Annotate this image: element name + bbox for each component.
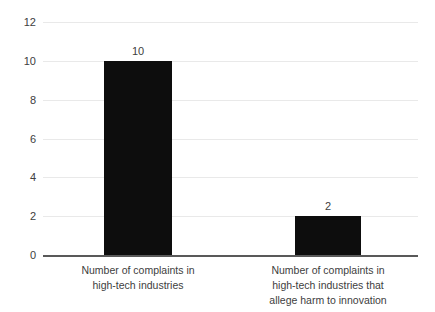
y-axis-tick-label: 2	[8, 211, 36, 222]
gridline	[43, 216, 418, 217]
gridline	[43, 177, 418, 178]
y-axis-tick-label: 8	[8, 94, 36, 105]
x-axis-category-label-2: Number of complaints in high-tech indust…	[236, 263, 421, 308]
y-axis-tick-label: 12	[8, 17, 36, 28]
gridline	[43, 139, 418, 140]
x-axis-category-label-1: Number of complaints in high-tech indust…	[48, 263, 228, 293]
plot-area: 10 2	[43, 22, 418, 255]
y-axis-tick-label: 0	[8, 250, 36, 261]
y-axis: 12 10 8 6 4 2 0	[0, 22, 36, 255]
category-label-line: high-tech industries	[48, 278, 228, 293]
category-label-line: allege harm to innovation	[236, 293, 421, 308]
category-label-line: Number of complaints in	[236, 263, 421, 278]
category-label-line: Number of complaints in	[48, 263, 228, 278]
gridline	[43, 22, 418, 23]
bar-complaints-high-tech	[104, 61, 172, 255]
x-axis-line	[43, 255, 418, 257]
y-axis-tick-label: 6	[8, 133, 36, 144]
bar-chart: 10 2 12 10 8 6 4 2 0 Number of complaint…	[0, 0, 435, 312]
category-label-line: high-tech industries that	[236, 278, 421, 293]
bar-value-label: 10	[132, 46, 144, 57]
gridline	[43, 100, 418, 101]
bar-value-label: 2	[325, 201, 331, 212]
bar-complaints-harm-innovation	[295, 216, 361, 255]
y-axis-tick-label: 10	[8, 55, 36, 66]
y-axis-tick-label: 4	[8, 172, 36, 183]
gridline	[43, 61, 418, 62]
